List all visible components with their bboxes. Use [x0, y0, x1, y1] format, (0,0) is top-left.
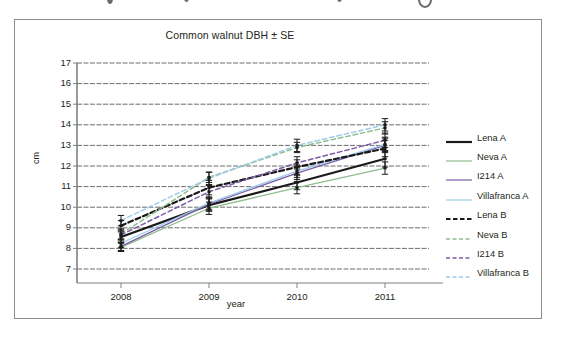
y-tick-label: 13: [45, 140, 71, 150]
legend-label: Villafranca A: [477, 191, 529, 201]
legend-line-swatch: [445, 133, 473, 143]
legend-line-swatch: [445, 191, 473, 201]
series-line: [121, 145, 385, 246]
legend-label: Neva A: [477, 152, 507, 162]
legend-line-swatch: [445, 152, 473, 162]
legend-item-villafranca-a: Villafranca A: [445, 186, 541, 205]
chart-legend: Lena ANeva AI214 AVillafranca ALena BNev…: [445, 128, 541, 283]
legend-item-lena-b: Lena B: [445, 206, 541, 225]
legend-label: Lena B: [477, 210, 506, 220]
legend-line-swatch: [445, 268, 473, 278]
legend-label: Villafranca B: [477, 268, 529, 278]
x-axis-title: year: [61, 298, 411, 309]
legend-item-neva-b: Neva B: [445, 225, 541, 244]
legend-item-i214-a: I214 A: [445, 167, 541, 186]
y-tick-label: 15: [45, 99, 71, 109]
legend-line-swatch: [445, 210, 473, 220]
series-line: [121, 125, 385, 221]
legend-item-i214-b: I214 B: [445, 244, 541, 263]
legend-line-swatch: [445, 249, 473, 259]
legend-item-neva-a: Neva A: [445, 147, 541, 166]
figure-frame: Common walnut DBH ± SE cm 78910111213141…: [14, 19, 542, 319]
series-lines: [121, 125, 385, 248]
legend-label: I214 B: [477, 249, 504, 259]
y-tick-label: 16: [45, 78, 71, 88]
y-tick-label: 14: [45, 119, 71, 129]
axis-lines: [77, 63, 443, 283]
error-bars: [118, 119, 388, 252]
legend-line-swatch: [445, 171, 473, 181]
y-tick-label: 12: [45, 161, 71, 171]
legend-line-swatch: [445, 230, 473, 240]
y-tick-label: 11: [45, 181, 71, 191]
y-tick-label: 9: [45, 222, 71, 232]
legend-label: Lena A: [477, 133, 506, 143]
x-tick-marks: [121, 283, 385, 288]
scan-text-artifact: [0, 0, 561, 14]
y-tick-label: 10: [45, 202, 71, 212]
legend-label: I214 A: [477, 171, 503, 181]
y-tick-label: 8: [45, 243, 71, 253]
legend-label: Neva B: [477, 230, 508, 240]
y-tick-label: 17: [45, 58, 71, 68]
series-line: [121, 128, 385, 234]
legend-item-villafranca-b: Villafranca B: [445, 264, 541, 283]
gridlines: [73, 63, 429, 269]
y-tick-label: 7: [45, 264, 71, 274]
legend-item-lena-a: Lena A: [445, 128, 541, 147]
